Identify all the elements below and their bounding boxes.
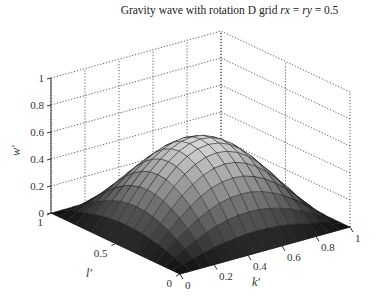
x-tick-label: 0.6 [287,251,301,263]
z-tick-label: 0.4 [30,153,44,165]
x-tick-label: 0 [185,279,191,291]
y-axis-label: l' [86,266,92,280]
y-tick-label: 1 [38,216,44,228]
x-tick-label: 1 [355,232,361,244]
x-tick-label: 0.2 [219,270,233,282]
x-axis-label: k' [252,275,260,289]
z-tick-label: 0.6 [30,126,44,138]
y-tick-label: 0.5 [94,247,108,259]
x-tick-label: 0.4 [253,260,267,272]
z-tick-label: 0.8 [30,99,44,111]
surface-plot: 00.20.40.60.8100.20.40.60.8100.51 w' l' … [0,0,379,302]
y-tick-label: 0 [167,277,173,289]
x-tick-label: 0.8 [321,241,335,253]
z-tick-label: 1 [39,72,45,84]
z-axis-label: w' [9,145,23,156]
z-tick-label: 0.2 [30,180,44,192]
